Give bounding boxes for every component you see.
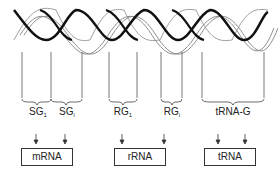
product-box-mrna: mRNA: [21, 148, 73, 166]
gene-label-sgi: SGi: [53, 106, 81, 118]
gene-label-rgi: RGi: [158, 106, 186, 118]
product-box-rrna: rRNA: [114, 148, 166, 166]
gene-label-trna-g: tRNA-G: [208, 106, 258, 117]
gene-label-rg1: RG1: [109, 106, 137, 118]
gene-label-sg1: SG1: [24, 106, 52, 118]
gene-braces: [22, 99, 264, 105]
dna-helix: [14, 8, 278, 54]
gene-boundaries: [22, 52, 264, 98]
arrows: [34, 134, 247, 144]
product-box-trna: tRNA: [204, 148, 256, 166]
